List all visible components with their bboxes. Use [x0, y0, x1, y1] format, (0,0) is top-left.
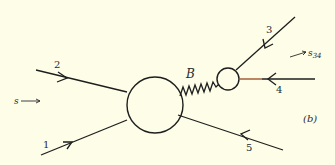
s34-arrow — [290, 51, 306, 57]
leg-2-label: 2 — [54, 59, 60, 70]
exchange-B-label: B — [185, 67, 195, 81]
leg-3-label: 3 — [266, 24, 272, 35]
feynman-diagram: 2 1 3 4 5 B s s34 (b) — [0, 0, 335, 165]
leg-1-label: 1 — [43, 139, 49, 150]
s-label: s — [14, 96, 19, 106]
leg-5 — [178, 115, 283, 150]
leg-1 — [41, 120, 127, 155]
blob-small — [217, 68, 239, 90]
leg-5-label: 5 — [246, 142, 252, 153]
blob-large — [127, 77, 183, 133]
s34-label: s34 — [308, 48, 322, 60]
leg-2 — [36, 70, 127, 92]
panel-label: (b) — [303, 113, 317, 124]
exchange-B-wavy-line — [180, 82, 219, 96]
s-arrow — [21, 99, 40, 103]
leg-4-label: 4 — [276, 84, 282, 95]
